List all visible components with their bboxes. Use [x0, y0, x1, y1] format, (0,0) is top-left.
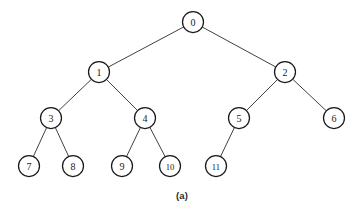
tree-edge: [108, 27, 183, 67]
tree-node[interactable]: 7: [19, 156, 40, 177]
tree-edge: [293, 79, 327, 111]
tree-edge: [246, 79, 277, 110]
tree-node-label: 8: [71, 161, 76, 172]
tree-node-label: 4: [143, 113, 148, 124]
tree-node-label: 0: [191, 17, 196, 28]
tree-node[interactable]: 9: [112, 156, 133, 177]
tree-node[interactable]: 2: [275, 62, 296, 83]
tree-edge: [59, 79, 92, 110]
tree-edge: [33, 128, 46, 157]
tree-node[interactable]: 4: [135, 108, 156, 129]
tree-edges-group: [33, 27, 326, 157]
tree-node[interactable]: 5: [229, 108, 250, 129]
tree-edge: [55, 128, 68, 157]
tree-edge: [127, 127, 141, 156]
tree-edge: [202, 27, 276, 67]
tree-node-label: 11: [212, 162, 220, 172]
figure-caption: (a): [0, 190, 364, 201]
tree-node-label: 10: [166, 162, 175, 172]
tree-diagram-canvas: 01234567891011: [0, 0, 364, 216]
tree-edge: [150, 127, 165, 156]
tree-node-label: 7: [27, 161, 32, 172]
tree-figure: 01234567891011 (a): [0, 0, 364, 216]
tree-node-label: 1: [97, 67, 102, 78]
tree-node-label: 3: [49, 113, 54, 124]
tree-node[interactable]: 10: [160, 156, 181, 177]
tree-node[interactable]: 6: [324, 108, 345, 129]
tree-node[interactable]: 3: [41, 108, 62, 129]
tree-node[interactable]: 8: [63, 156, 84, 177]
tree-node-label: 2: [283, 67, 288, 78]
tree-node-label: 9: [120, 161, 125, 172]
tree-node[interactable]: 0: [183, 12, 204, 33]
tree-node-label: 5: [237, 113, 242, 124]
tree-node[interactable]: 1: [89, 62, 110, 83]
tree-edge: [221, 127, 235, 156]
tree-node[interactable]: 11: [206, 156, 227, 177]
tree-edge: [106, 79, 137, 110]
tree-node-label: 6: [332, 113, 337, 124]
tree-nodes-group: 01234567891011: [19, 12, 345, 177]
